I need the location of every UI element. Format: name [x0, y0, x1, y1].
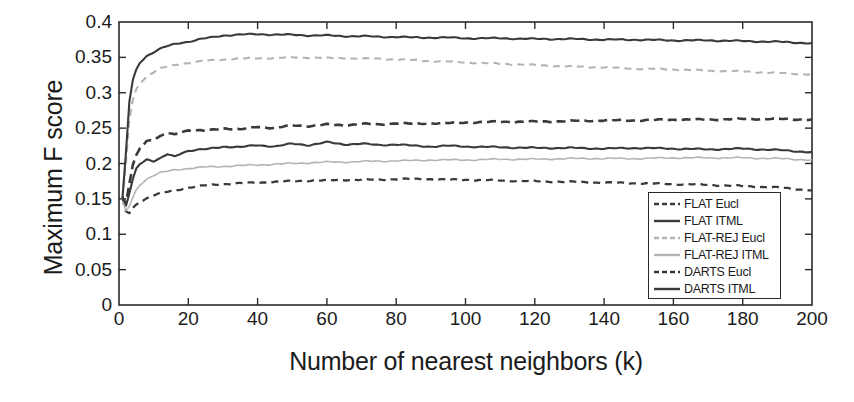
legend-item: DARTS Eucl: [649, 263, 780, 280]
x-axis-label: Number of nearest neighbors (k): [119, 347, 813, 376]
x-tick-label: 160: [658, 308, 690, 330]
y-tick-label: 0.25: [50, 117, 112, 139]
x-tick-label: 180: [727, 308, 759, 330]
y-tick-label: 0.35: [50, 46, 112, 68]
legend-swatch-dashed-icon: [653, 267, 681, 277]
figure-container: Maximum F score 00.050.10.150.20.250.30.…: [0, 0, 854, 402]
y-axis-tick-labels: 00.050.10.150.20.250.30.350.4: [48, 0, 112, 402]
legend-swatch-dashed-icon: [653, 199, 681, 209]
y-tick-label: 0.4: [50, 11, 112, 33]
legend-label: DARTS Eucl: [684, 265, 751, 279]
x-tick-label: 40: [247, 308, 268, 330]
legend-swatch-dashed-icon: [653, 233, 681, 243]
y-tick-label: 0: [50, 294, 112, 316]
x-tick-label: 120: [519, 308, 551, 330]
x-tick-label: 100: [450, 308, 482, 330]
x-tick-label: 60: [316, 308, 337, 330]
legend-label: DARTS ITML: [684, 282, 755, 296]
y-tick-label: 0.15: [50, 188, 112, 210]
y-tick-label: 0.05: [50, 259, 112, 281]
legend-item: FLAT Eucl: [649, 195, 780, 212]
y-tick-label: 0.3: [50, 82, 112, 104]
legend: FLAT EuclFLAT ITMLFLAT-REJ EuclFLAT-REJ …: [648, 192, 781, 299]
legend-swatch-solid-icon: [653, 216, 681, 226]
x-tick-label: 140: [588, 308, 620, 330]
legend-label: FLAT-REJ ITML: [684, 248, 769, 262]
x-tick-label: 20: [178, 308, 199, 330]
x-tick-label: 80: [386, 308, 407, 330]
series-line-darts-itml: [122, 34, 812, 198]
legend-label: FLAT ITML: [684, 214, 743, 228]
legend-item: FLAT ITML: [649, 212, 780, 229]
legend-label: FLAT-REJ Eucl: [684, 231, 765, 245]
x-tick-label: 0: [114, 308, 125, 330]
legend-item: FLAT-REJ Eucl: [649, 229, 780, 246]
legend-item: DARTS ITML: [649, 280, 780, 297]
legend-label: FLAT Eucl: [684, 197, 739, 211]
x-tick-label: 200: [796, 308, 828, 330]
legend-swatch-solid-icon: [653, 284, 681, 294]
y-tick-label: 0.2: [50, 153, 112, 175]
y-tick-label: 0.1: [50, 223, 112, 245]
series-line-darts-eucl: [122, 118, 812, 203]
legend-item: FLAT-REJ ITML: [649, 246, 780, 263]
legend-swatch-solid-icon: [653, 250, 681, 260]
